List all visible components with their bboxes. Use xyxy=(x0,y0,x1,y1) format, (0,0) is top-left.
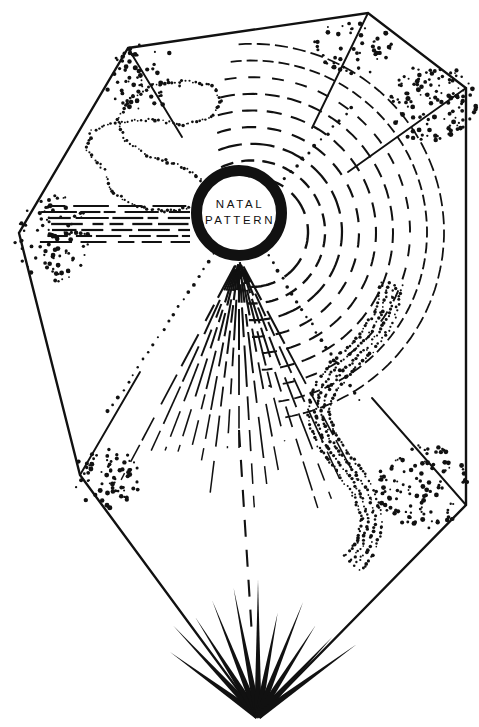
emblem-label-line-2: PATTERN xyxy=(205,214,275,226)
emblem-disc xyxy=(202,176,276,250)
emblem-label-line-1: NATAL xyxy=(216,198,264,210)
natal-pattern-emblem: NATAL PATTERN xyxy=(197,171,282,256)
natal-pattern-diagram: NATAL PATTERN xyxy=(0,0,479,727)
natal-pattern-canvas: NATAL PATTERN xyxy=(0,0,479,727)
